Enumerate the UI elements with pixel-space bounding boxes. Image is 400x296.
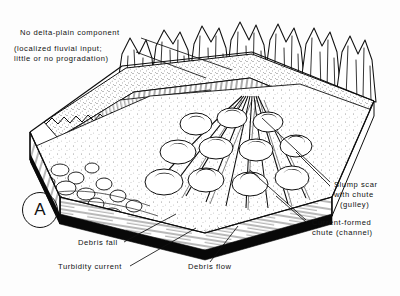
label-chute-channel: chute (channel): [312, 228, 373, 238]
label-localized-fluvial-input: (localized fluvial input;: [14, 44, 102, 54]
label-slump-scar: Slump scar: [334, 180, 377, 190]
label-little-or-no-progradation: little or no progradation): [14, 54, 109, 64]
label-current-formed: Current-formed: [312, 218, 371, 228]
label-debris-fall: Debris fall: [78, 238, 118, 248]
label-debris-flow: Debris flow: [188, 262, 232, 272]
label-slump-gulley: (gulley): [340, 200, 369, 210]
panel-letter-a: A: [22, 192, 58, 228]
label-no-delta-plain-component: No delta-plain component: [20, 28, 120, 38]
label-turbidity-current: Turbidity current: [58, 262, 122, 272]
label-slump-with-chute: with chute: [334, 190, 374, 200]
block-diagram-figure: No delta-plain component (localized fluv…: [0, 0, 400, 296]
